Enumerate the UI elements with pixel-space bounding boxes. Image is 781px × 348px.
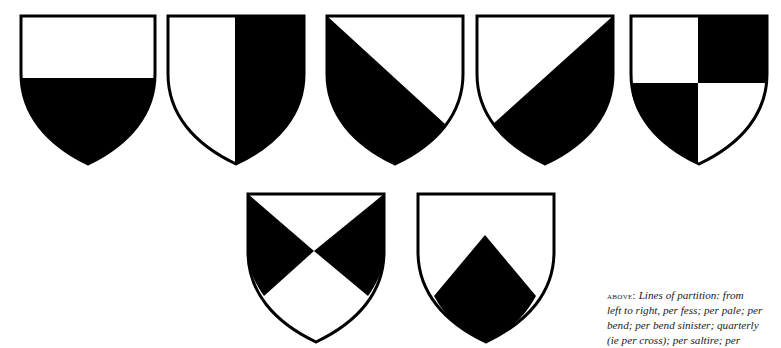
shield-per-fess [19,14,157,166]
shield-quarterly [629,14,769,166]
figure-caption: above: Lines of partition: from left to … [607,288,779,348]
caption-line-2: left to right, per fess; per pale; per [607,303,779,318]
shield-per-saltire [246,192,386,344]
caption-line-3: bend; per bend sinister; quarterly [607,318,779,333]
caption-lead: above: [607,290,636,301]
shield-per-bend [325,14,465,166]
shield-per-pale [166,14,306,166]
shield-per-bend-sinister [475,14,615,166]
shield-per-chevron [416,192,556,344]
caption-line-4: (ie per cross); per saltire; per [607,333,779,348]
caption-line-1: above: Lines of partition: from [607,288,779,303]
